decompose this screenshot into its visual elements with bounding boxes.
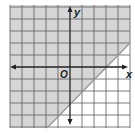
y-axis-label: y: [73, 6, 81, 18]
coordinate-graph: y x O: [0, 0, 135, 136]
x-axis-label: x: [125, 68, 133, 80]
origin-label: O: [60, 69, 68, 80]
